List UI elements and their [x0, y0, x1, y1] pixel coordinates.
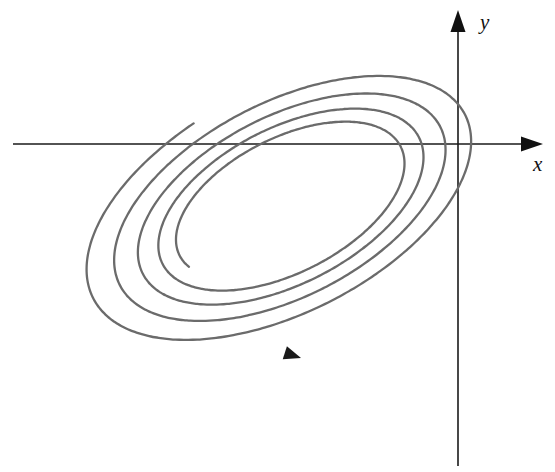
y-axis-arrowhead: [451, 10, 466, 32]
phase-portrait-svg: x y: [0, 0, 555, 472]
x-axis-label: x: [532, 152, 543, 176]
axis-labels-group: x y: [478, 10, 543, 176]
trajectory-group: [87, 76, 472, 359]
x-axis-arrowhead: [521, 137, 543, 152]
spiral-trajectory-curve: [87, 76, 472, 340]
phase-portrait-figure: x y: [0, 0, 555, 472]
direction-arrowhead-icon: [283, 346, 301, 359]
y-axis-label: y: [478, 10, 490, 34]
